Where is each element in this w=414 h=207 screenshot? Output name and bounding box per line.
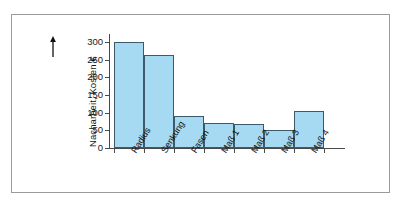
y-axis-label-group: Nacharbeit, Kosten € bbox=[46, 37, 60, 147]
x-axis-tick bbox=[114, 148, 115, 153]
y-axis-tick-label: 100 bbox=[87, 108, 103, 118]
y-axis-tick bbox=[105, 148, 110, 149]
x-axis-tick bbox=[234, 148, 235, 153]
x-axis-tick bbox=[174, 148, 175, 153]
y-axis-tick-label: 50 bbox=[92, 126, 103, 136]
x-axis-tick bbox=[294, 148, 295, 153]
x-axis-tick bbox=[264, 148, 265, 153]
up-arrow-icon bbox=[49, 36, 58, 58]
x-axis-tick bbox=[324, 148, 325, 153]
y-axis-tick-label: 150 bbox=[87, 90, 103, 100]
y-axis-tick-label: 300 bbox=[87, 37, 103, 47]
chart-figure-frame: Nacharbeit, Kosten € 050100150200250300 … bbox=[11, 14, 390, 193]
y-axis-tick-label: 200 bbox=[87, 73, 103, 83]
y-axis-tick-label: 0 bbox=[98, 143, 103, 153]
x-axis-tick bbox=[144, 148, 145, 153]
y-axis-tick-label: 250 bbox=[87, 55, 103, 65]
x-axis-tick bbox=[204, 148, 205, 153]
plot-area: 050100150200250300 RadiusSenkungFasenMaß… bbox=[109, 42, 345, 148]
